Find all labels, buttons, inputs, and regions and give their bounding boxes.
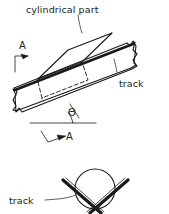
section-marker-top-label: A bbox=[19, 40, 26, 51]
track-outline bbox=[14, 41, 137, 112]
v-track-right-arm bbox=[90, 180, 128, 213]
engineering-drawing: Θ A A track cylindrical part bbox=[0, 0, 169, 214]
section-arrow-bottom bbox=[57, 135, 66, 140]
section-line-bottom bbox=[41, 131, 60, 142]
angle-label: Θ bbox=[68, 107, 76, 118]
cylinder-cross-section-circle bbox=[75, 169, 115, 209]
section-view-group: track bbox=[9, 169, 128, 213]
track-label-bottom-leader-line bbox=[45, 195, 76, 200]
cylindrical-part-label: cylindrical part bbox=[26, 4, 99, 15]
track-label-bottom: track bbox=[9, 195, 34, 206]
drawing-canvas: Θ A A track cylindrical part bbox=[0, 0, 169, 214]
top-view-group: Θ A A track cylindrical part bbox=[13, 4, 144, 142]
cylindrical-part-leader-line bbox=[78, 15, 82, 33]
section-marker-bottom-label: A bbox=[66, 131, 73, 142]
section-line-top bbox=[15, 56, 28, 72]
section-arrow-top bbox=[21, 54, 28, 59]
track-label-top: track bbox=[119, 78, 144, 89]
v-track-right-edge bbox=[87, 178, 125, 212]
